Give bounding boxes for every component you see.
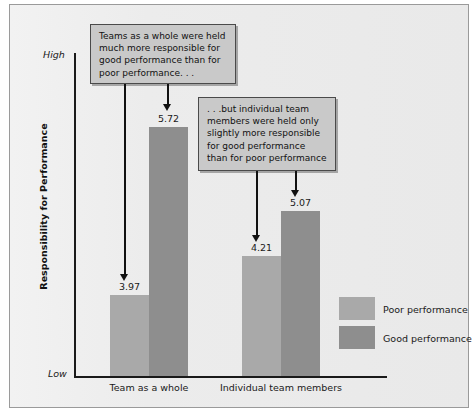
callout-individuals-arrow-left-line xyxy=(256,171,258,237)
bar-individual-good xyxy=(281,211,320,376)
x-axis-category-individual: Individual team members xyxy=(211,382,351,393)
legend-label-good: Good performance xyxy=(383,333,472,344)
callout-individuals-arrow-left-head xyxy=(252,235,260,242)
callout-individuals-arrow-right-head xyxy=(291,190,299,197)
y-axis-title: Responsibility for Performance xyxy=(38,122,49,292)
legend-label-poor: Poor performance xyxy=(383,304,468,315)
plot-background xyxy=(10,5,468,407)
callout-individuals-arrow-right-line xyxy=(295,171,297,192)
chart-panel: High Low Responsibility for Performance … xyxy=(9,4,469,408)
legend-swatch-good xyxy=(339,326,375,349)
callout-teams: Teams as a whole were held much more res… xyxy=(90,24,236,84)
x-axis-line xyxy=(74,376,387,378)
y-axis-tick-high: High xyxy=(43,49,65,60)
callout-individuals: . . .but individual team members were he… xyxy=(198,97,336,171)
bar-value-team-poor: 3.97 xyxy=(110,281,149,292)
x-axis-category-team: Team as a whole xyxy=(89,382,209,393)
bar-value-team-good: 5.72 xyxy=(149,113,188,124)
chart-screenshot: High Low Responsibility for Performance … xyxy=(0,0,473,412)
y-axis-line xyxy=(74,53,76,378)
bar-value-individual-poor: 4.21 xyxy=(242,242,281,253)
callout-teams-arrow-right-head xyxy=(163,104,171,111)
callout-teams-arrow-left-line xyxy=(124,84,126,276)
callout-teams-arrow-right-line xyxy=(167,84,169,106)
bar-team-poor xyxy=(110,295,149,376)
callout-teams-arrow-left-head xyxy=(120,274,128,281)
legend-swatch-poor xyxy=(339,297,375,320)
bar-team-good xyxy=(149,127,188,376)
bar-value-individual-good: 5.07 xyxy=(281,197,320,208)
y-axis-tick-low: Low xyxy=(48,368,67,379)
bar-individual-poor xyxy=(242,256,281,376)
